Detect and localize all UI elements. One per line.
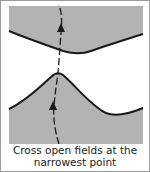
top-field xyxy=(9,6,143,53)
caption: Cross open fields at the narrowest point xyxy=(1,144,149,168)
caption-line-2: narrowest point xyxy=(1,156,149,168)
bottom-field xyxy=(9,73,143,144)
diagram-frame: Cross open fields at the narrowest point xyxy=(0,0,150,172)
field-crossing-diagram xyxy=(1,1,149,144)
caption-line-1: Cross open fields at the xyxy=(1,144,149,156)
